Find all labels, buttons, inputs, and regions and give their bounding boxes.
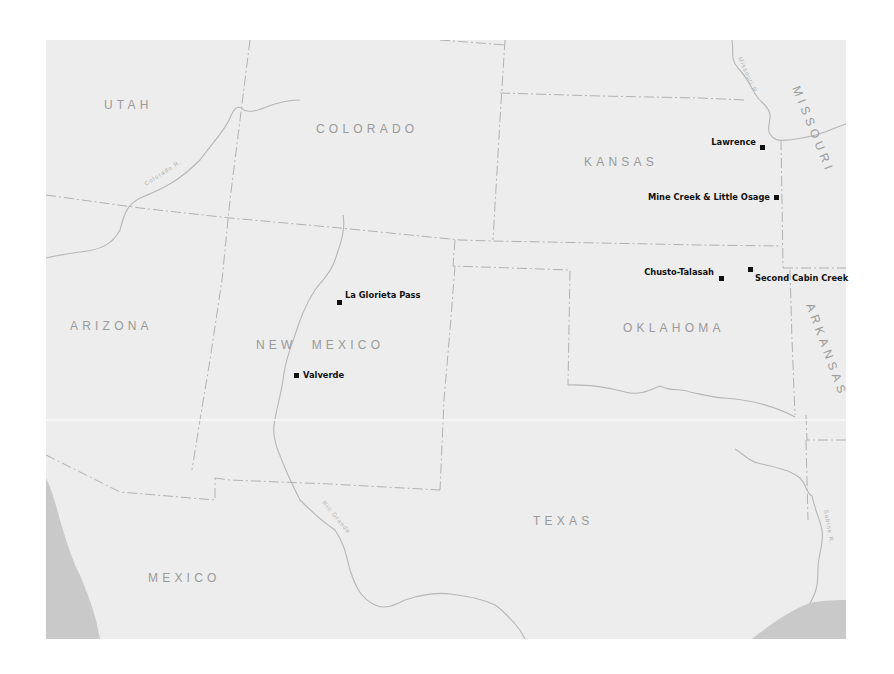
state-label-texas: TEXAS [533, 514, 593, 528]
site-marker-icon [719, 276, 724, 281]
state-label-mexico: MEXICO [148, 571, 221, 585]
site-marker-icon [748, 267, 753, 272]
state-label-arizona: ARIZONA [70, 319, 153, 333]
site-marker-icon [760, 145, 765, 150]
site-label: Lawrence [711, 137, 756, 147]
site-marker-icon [774, 195, 779, 200]
civil-war-battle-map: UTAH COLORADO KANSAS ARIZONA NEW MEXICO … [0, 0, 894, 674]
state-label-oklahoma: OKLAHOMA [623, 321, 725, 335]
site-label: Second Cabin Creek [755, 273, 849, 283]
site-marker-icon [337, 300, 342, 305]
site-marker-icon [294, 373, 299, 378]
site-label: Chusto-Talasah [644, 267, 714, 277]
state-label-utah: UTAH [104, 98, 153, 112]
site-mine-creek-little-osage[interactable]: Mine Creek & Little Osage [648, 192, 779, 202]
map-background [46, 40, 846, 639]
site-label: La Glorieta Pass [345, 290, 421, 300]
site-label: Valverde [303, 370, 344, 380]
state-label-new-mexico: NEW MEXICO [256, 338, 384, 352]
state-label-kansas: KANSAS [584, 155, 658, 169]
site-label: Mine Creek & Little Osage [648, 192, 770, 202]
state-label-colorado: COLORADO [316, 122, 418, 136]
